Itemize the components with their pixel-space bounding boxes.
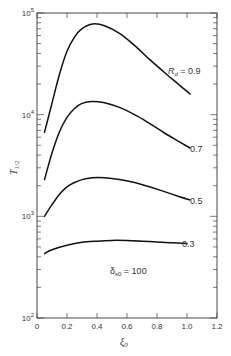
curves — [45, 24, 191, 254]
x-tick-label: 0.2 — [61, 322, 73, 331]
axis-tick-labels: 00.20.40.60.81.01.2102103104105 — [22, 7, 223, 331]
y-tick-label: 105 — [22, 7, 35, 18]
curve-label-0.9: Rd = 0.9 — [168, 66, 201, 77]
x-tick-label: 0.4 — [91, 322, 103, 331]
curve-rd-0.5 — [45, 177, 191, 216]
x-axis-title: ξ0 — [120, 336, 128, 349]
y-axis-title: T1/2 — [8, 160, 21, 175]
y-tick-label: 102 — [22, 312, 35, 323]
curve-rd-0.7 — [45, 101, 191, 179]
curve-rd-0.9 — [45, 24, 191, 132]
curve-rd-0.3 — [45, 240, 188, 253]
y-tick-label: 103 — [22, 210, 35, 221]
x-tick-label: 0.6 — [121, 322, 133, 331]
curve-label-0.5: 0.5 — [190, 196, 203, 206]
x-tick-label: 0 — [35, 322, 40, 331]
x-tick-label: 1.0 — [181, 322, 193, 331]
y-tick-label: 104 — [22, 109, 35, 120]
curve-label-0.3: 0.3 — [182, 239, 195, 249]
x-tick-label: 0.8 — [151, 322, 163, 331]
x-tick-label: 1.2 — [211, 322, 223, 331]
curve-label-0.7: 0.7 — [190, 144, 203, 154]
chart: 00.20.40.60.81.01.2102103104105 Rd = 0.9… — [0, 0, 231, 356]
delta-annotation: δs0 = 100 — [110, 266, 147, 277]
